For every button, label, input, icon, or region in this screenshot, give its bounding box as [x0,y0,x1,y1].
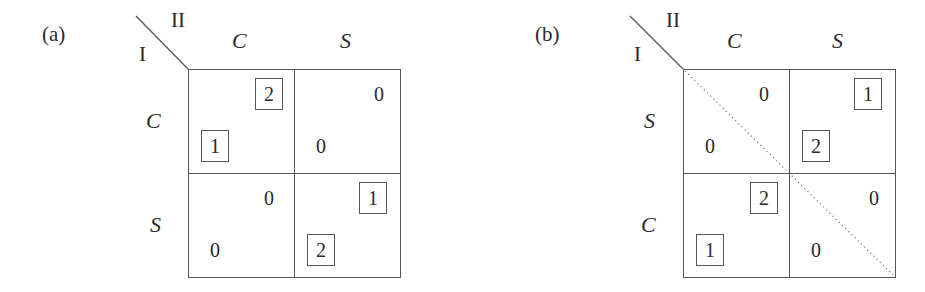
cell-r1-c1: 0 0 [684,70,790,174]
payoff-player-I: 0 [307,130,335,162]
col-strategy-1: C [232,28,247,54]
cell-r2-c1: 0 0 [189,174,295,278]
row-player-label: I [634,42,641,67]
row-player-label: I [139,42,146,67]
row-strategy-2: C [641,212,656,238]
payoff-player-I: 1 [696,234,724,266]
payoff-player-II: 0 [860,182,888,214]
payoff-player-I: 0 [201,234,229,266]
payoff-matrix: 2 1 0 0 0 0 1 2 [188,69,401,278]
payoff-player-II: 2 [750,182,778,214]
payoff-player-II: 2 [255,78,283,110]
payoff-player-II: 1 [854,78,882,110]
col-strategy-1: C [727,28,742,54]
payoff-player-II: 0 [365,78,393,110]
cell-r2-c2: 0 0 [790,174,896,278]
payoff-player-I: 2 [307,234,335,266]
panel-b: (b) II I C S S C 0 0 1 2 2 1 0 0 [495,0,925,292]
payoff-player-I: 1 [201,130,229,162]
cell-r2-c1: 2 1 [684,174,790,278]
row-strategy-1: C [146,108,161,134]
payoff-player-II: 1 [359,182,387,214]
panel-a: (a) II I C S C S 2 1 0 0 0 0 1 2 [0,0,462,292]
payoff-player-II: 0 [255,182,283,214]
row-strategy-1: S [644,108,655,134]
col-strategy-2: S [832,28,843,54]
row-strategy-2: S [150,212,161,238]
column-player-label: II [171,8,185,33]
payoff-player-II: 0 [750,78,778,110]
cell-r2-c2: 1 2 [295,174,401,278]
cell-r1-c2: 1 2 [790,70,896,174]
payoff-player-I: 0 [802,234,830,266]
payoff-player-I: 0 [696,130,724,162]
payoff-matrix: 0 0 1 2 2 1 0 0 [683,69,896,278]
column-player-label: II [666,8,680,33]
payoff-player-I: 2 [802,130,830,162]
col-strategy-2: S [340,28,351,54]
cell-r1-c1: 2 1 [189,70,295,174]
cell-r1-c2: 0 0 [295,70,401,174]
